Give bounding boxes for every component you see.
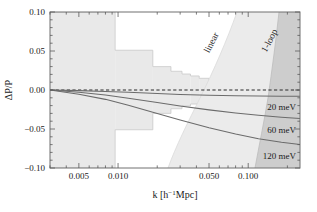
x-tick-label: 0.050 bbox=[199, 171, 220, 181]
x-tick-label: 0.005 bbox=[69, 171, 90, 181]
y-tick-label: 0.10 bbox=[29, 7, 45, 17]
curve-label-60mev: 60 meV bbox=[267, 125, 296, 135]
figure-container: 0.0050.0100.0500.100 0.100.050.00−0.05−0… bbox=[0, 0, 317, 212]
y-tick-label: 0.05 bbox=[29, 46, 45, 56]
power-spectrum-chart: 0.0050.0100.0500.100 0.100.050.00−0.05−0… bbox=[0, 0, 317, 212]
x-axis-title: k [h−1Mpc] bbox=[153, 189, 198, 200]
y-tick-label: −0.10 bbox=[24, 163, 45, 173]
y-tick-label: 0.00 bbox=[29, 85, 45, 95]
x-tick-label: 0.010 bbox=[108, 171, 129, 181]
y-tick-label: −0.05 bbox=[24, 124, 45, 134]
x-title-unit: Mpc] bbox=[176, 189, 198, 200]
y-axis-title: ΔP/P bbox=[3, 79, 14, 100]
x-title-bracket: [h bbox=[160, 189, 168, 200]
x-tick-label: 0.100 bbox=[238, 171, 259, 181]
curve-label-20mev: 20 meV bbox=[267, 102, 296, 112]
curve-label-120mev: 120 meV bbox=[263, 151, 297, 161]
